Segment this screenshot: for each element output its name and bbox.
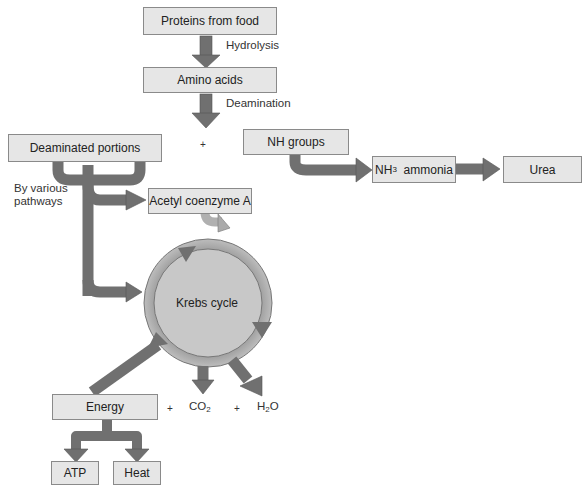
- arrowhead-to-krebs: [126, 282, 142, 302]
- node-acetyl-coenzyme-a: Acetyl coenzyme A: [148, 188, 252, 214]
- label-h2o: H2O: [257, 400, 279, 416]
- plus-sign-2: +: [234, 402, 240, 415]
- node-deaminated-portions: Deaminated portions: [8, 134, 162, 162]
- node-urea: Urea: [503, 156, 582, 183]
- plus-sign-1: +: [167, 402, 173, 415]
- node-nh-groups: NH groups: [243, 129, 349, 155]
- node-amino-acids: Amino acids: [143, 67, 277, 93]
- arrowhead-to-urea: [483, 158, 500, 181]
- node-energy: Energy: [52, 394, 158, 420]
- label-deamination: Deamination: [226, 97, 291, 110]
- arrowhead-co2: [192, 380, 214, 394]
- arrow-hydrolysis: [192, 36, 220, 68]
- node-krebs-cycle: Krebs cycle: [176, 296, 238, 310]
- arrow-deaminated-pathways: [58, 160, 140, 296]
- node-atp: ATP: [51, 461, 99, 485]
- label-hydrolysis: Hydrolysis: [226, 39, 279, 52]
- arrowhead-to-nh3: [356, 158, 372, 182]
- label-co2: CO2: [189, 400, 211, 416]
- label-by-various-pathways: By various pathways: [14, 182, 68, 208]
- arrow-deamination: [192, 94, 220, 128]
- node-nh3-ammonia: NH3 ammonia: [372, 156, 456, 183]
- plus-sign: +: [200, 138, 206, 151]
- node-heat: Heat: [113, 461, 161, 485]
- node-proteins-from-food: Proteins from food: [143, 7, 277, 35]
- arrowhead-to-acetyl: [126, 190, 146, 210]
